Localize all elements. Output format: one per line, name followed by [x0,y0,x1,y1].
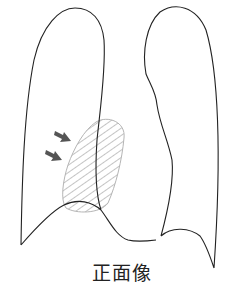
chest-xray-diagram [0,0,243,291]
left-lung-outline [145,7,219,268]
arrow-icon [54,131,71,142]
hatched-opacity-region [63,119,124,212]
figure-caption: 正面像 [0,258,243,285]
arrow-icon [45,150,62,161]
